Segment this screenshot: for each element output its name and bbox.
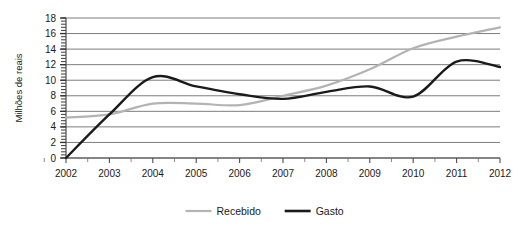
- chart-figure: 024681012141618 200220032004200520062007…: [0, 0, 530, 229]
- y-axis-major-ticks: [60, 18, 66, 158]
- y-axis-minor-ticks: [61, 18, 66, 158]
- y-tick-label: 4: [50, 121, 56, 132]
- y-tick-label: 2: [50, 137, 56, 148]
- y-tick-label: 18: [45, 13, 57, 24]
- y-axis-title: Milhões de reais: [13, 53, 24, 122]
- x-tick-label: 2002: [55, 168, 78, 179]
- y-tick-label: 8: [50, 90, 56, 101]
- x-tick-label: 2008: [315, 168, 338, 179]
- x-tick-label: 2009: [359, 168, 382, 179]
- x-tick-label: 2007: [272, 168, 295, 179]
- x-tick-label: 2003: [98, 168, 121, 179]
- y-tick-label: 12: [45, 59, 57, 70]
- y-tick-label: 6: [50, 106, 56, 117]
- legend-label-gasto: Gasto: [316, 205, 344, 217]
- x-tick-label: 2005: [185, 168, 208, 179]
- x-tick-label: 2006: [228, 168, 251, 179]
- x-tick-label: 2011: [446, 168, 468, 179]
- x-tick-label: 2004: [142, 168, 165, 179]
- line-chart: 024681012141618 200220032004200520062007…: [0, 0, 530, 229]
- y-tick-label: 16: [45, 28, 57, 39]
- legend-label-recebido: Recebido: [216, 205, 261, 217]
- x-axis-ticks: [44, 158, 500, 163]
- chart-legend: RecebidoGasto: [185, 205, 343, 217]
- y-tick-label: 10: [45, 75, 57, 86]
- y-tick-label: 0: [50, 153, 56, 164]
- y-tick-label: 14: [45, 44, 57, 55]
- x-tick-label: 2010: [402, 168, 425, 179]
- plot-area-background: [66, 18, 500, 158]
- y-axis-tick-labels: 024681012141618: [45, 13, 57, 164]
- x-axis-tick-labels: 2002200320042005200620072008200920102011…: [55, 168, 512, 179]
- x-tick-label: 2012: [489, 168, 512, 179]
